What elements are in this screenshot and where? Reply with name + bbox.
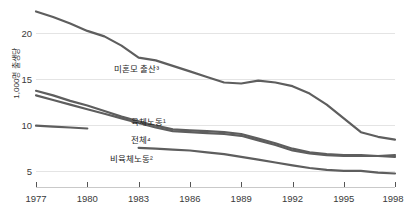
x-tick-1977 (36, 182, 37, 187)
plot-area (36, 6, 395, 187)
series-line-total (36, 95, 395, 156)
series-lines (36, 6, 395, 187)
series-label-total: 전체⁴ (131, 133, 151, 145)
series-label-manual: 육체노동¹ (131, 115, 166, 127)
x-tick-label-1983: 1983 (119, 193, 159, 204)
series-label-unwed: 미혼모 출산³ (114, 62, 159, 74)
series-line-manual (36, 91, 395, 157)
x-tick-label-1980: 1980 (67, 193, 107, 204)
x-tick-label-1989: 1989 (221, 193, 261, 204)
x-tick-label-1977: 1977 (16, 193, 56, 204)
x-tick-label-1998: 1998 (373, 193, 408, 204)
x-tick-label-1992: 1992 (273, 193, 313, 204)
x-tick-label-1995: 1995 (324, 193, 364, 204)
x-tick-1992 (293, 182, 294, 187)
series-line-unwed (36, 12, 395, 140)
x-tick-1986 (190, 182, 191, 187)
x-tick-1983 (139, 182, 140, 187)
x-tick-1980 (87, 182, 88, 187)
x-tick-1989 (241, 182, 242, 187)
series-line-nonmanual-2 (139, 148, 395, 174)
x-tick-1995 (344, 182, 345, 187)
y-tick-label-20: 20 (8, 28, 32, 39)
y-tick-label-10: 10 (8, 120, 32, 131)
x-axis-line (36, 187, 395, 188)
x-tick-label-1986: 1986 (170, 193, 210, 204)
y-tick-label-5: 5 (8, 166, 32, 177)
x-tick-1998 (395, 182, 396, 187)
series-label-nonmanual: 비육체노동² (110, 152, 153, 164)
y-tick-label-15: 15 (8, 74, 32, 85)
series-line-nonmanual (36, 126, 87, 129)
